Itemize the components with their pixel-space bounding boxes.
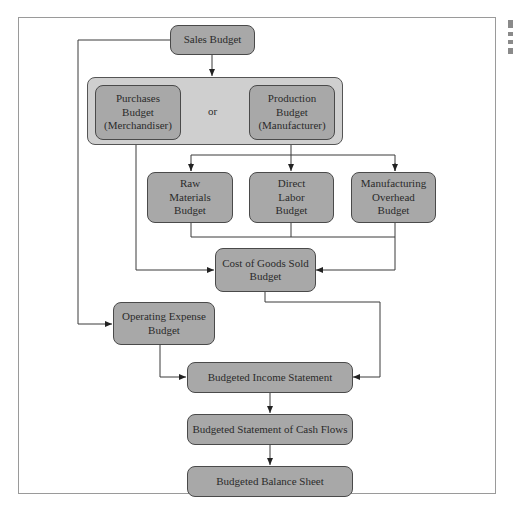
opex-label-line2: Budget	[148, 324, 180, 338]
direct-labor-label-line2: Labor	[278, 191, 304, 205]
income-statement-label: Budgeted Income Statement	[208, 371, 333, 385]
production-budget-node: Production Budget (Manufacturer)	[249, 85, 335, 140]
cash-flows-label: Budgeted Statement of Cash Flows	[192, 423, 347, 437]
production-label-line3: (Manufacturer)	[258, 119, 325, 133]
direct-labor-budget-node: Direct Labor Budget	[249, 172, 334, 223]
raw-materials-label-line3: Budget	[174, 204, 206, 218]
opex-label-line1: Operating Expense	[122, 310, 206, 324]
direct-labor-label-line1: Direct	[278, 177, 305, 191]
balance-sheet-label: Budgeted Balance Sheet	[216, 475, 324, 489]
purchases-label-line3: (Merchandiser)	[104, 119, 172, 133]
raw-materials-budget-node: Raw Materials Budget	[147, 172, 233, 223]
mfg-overhead-label-line2: Overhead	[372, 191, 415, 205]
raw-materials-label-line1: Raw	[180, 177, 200, 191]
mfg-overhead-label-line1: Manufacturing	[361, 177, 426, 191]
cogs-budget-node: Cost of Goods Sold Budget	[215, 248, 316, 292]
budgeted-income-statement-node: Budgeted Income Statement	[187, 362, 353, 393]
operating-expense-budget-node: Operating Expense Budget	[113, 302, 215, 345]
production-label-line1: Production	[268, 92, 316, 106]
budgeted-balance-sheet-node: Budgeted Balance Sheet	[187, 466, 353, 497]
or-label: or	[208, 105, 217, 117]
production-label-line2: Budget	[276, 106, 308, 120]
raw-materials-label-line2: Materials	[169, 191, 211, 205]
cogs-label-line1: Cost of Goods Sold	[222, 257, 309, 271]
purchases-budget-node: Purchases Budget (Merchandiser)	[95, 85, 181, 140]
cogs-label-line2: Budget	[250, 270, 282, 284]
direct-labor-label-line3: Budget	[276, 204, 308, 218]
mfg-overhead-label-line3: Budget	[378, 204, 410, 218]
purchases-label-line2: Budget	[122, 106, 154, 120]
budgeted-cash-flows-node: Budgeted Statement of Cash Flows	[187, 414, 353, 445]
manufacturing-overhead-budget-node: Manufacturing Overhead Budget	[351, 172, 436, 223]
sales-budget-node: Sales Budget	[170, 25, 255, 55]
sales-budget-label: Sales Budget	[184, 33, 242, 47]
purchases-label-line1: Purchases	[116, 92, 160, 106]
